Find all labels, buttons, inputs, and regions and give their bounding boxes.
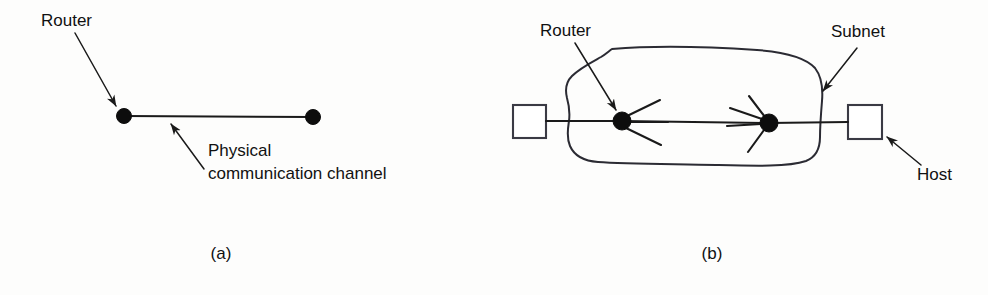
panel-a-caption: (a) <box>211 244 232 263</box>
physical-channel-label-line2: communication channel <box>208 164 387 183</box>
router-node <box>117 109 132 124</box>
panel-b: Router Subnet Host (b) <box>513 21 952 263</box>
channel-leader-line <box>171 124 204 169</box>
endpoint-node <box>306 110 321 125</box>
spoke-right-router-west <box>727 124 761 126</box>
spoke-left-router-northeast <box>625 100 660 117</box>
host-leader-line <box>887 137 921 165</box>
router-node-right <box>760 114 778 132</box>
spoke-right-router-northwest <box>730 108 762 119</box>
link-router-to-host-right <box>769 122 848 123</box>
router-leader-line <box>575 43 616 110</box>
physical-channel-link <box>124 116 313 117</box>
spoke-right-router-north <box>749 96 765 117</box>
subnet-leader-line <box>823 48 857 91</box>
panel-b-caption: (b) <box>702 244 723 263</box>
host-box-left <box>513 105 546 138</box>
physical-channel-label-line1: Physical <box>208 141 271 160</box>
host-box-right <box>848 105 882 139</box>
router-node-left <box>613 112 631 130</box>
router-label: Router <box>540 21 591 40</box>
panel-a: Router Physical communication channel (a… <box>41 11 387 263</box>
router-leader-line <box>75 33 116 106</box>
spoke-left-router-southeast <box>626 128 661 145</box>
network-diagram-figure: Router Physical communication channel (a… <box>0 0 988 295</box>
host-label: Host <box>917 165 952 184</box>
subnet-cloud <box>566 47 822 166</box>
spoke-right-router-southwest <box>748 130 764 152</box>
subnet-label: Subnet <box>831 22 885 41</box>
figure-canvas: Router Physical communication channel (a… <box>0 0 988 295</box>
router-label: Router <box>41 11 92 30</box>
